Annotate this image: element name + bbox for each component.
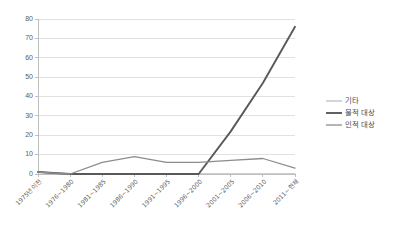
y-tick-label: 50: [25, 73, 33, 80]
series-line-2: [38, 157, 295, 174]
series-line-1: [38, 27, 295, 174]
chart-container: 01020304050607080 1975년이전1976~19801981~1…: [0, 0, 395, 227]
x-tick-label: 1996~2000: [172, 178, 203, 209]
chart-legend: 기타물적 대상인적 대상: [326, 96, 375, 129]
gridlines-group: [38, 19, 295, 174]
series-group: [38, 27, 295, 174]
x-tick-label: 1991~1995: [140, 178, 171, 209]
y-axis-group: 01020304050607080: [25, 15, 38, 177]
x-tick-label: 1981~1985: [76, 178, 107, 209]
x-tick-label: 2011~현재: [271, 178, 300, 207]
y-tick-label: 10: [25, 150, 33, 157]
y-tick-label: 0: [29, 170, 33, 177]
y-tick-label: 40: [25, 92, 33, 99]
y-tick-label: 70: [25, 34, 33, 41]
x-tick-label: 1976~1980: [44, 178, 75, 209]
legend-label-1: 물적 대상: [345, 108, 375, 117]
legend-label-2: 인적 대상: [345, 120, 375, 129]
x-tick-label: 2006~2010: [237, 178, 268, 209]
x-axis-group: 1975년이전1976~19801981~19851986~19901991~1…: [14, 174, 301, 209]
legend-label-0: 기타: [345, 96, 359, 105]
y-tick-label: 20: [25, 131, 33, 138]
x-tick-label: 1975년이전: [14, 178, 44, 208]
x-tick-label: 1986~1990: [108, 178, 139, 209]
x-tick-label: 2001~2005: [205, 178, 236, 209]
y-tick-label: 30: [25, 112, 33, 119]
y-tick-label: 60: [25, 54, 33, 61]
y-tick-label: 80: [25, 15, 33, 22]
line-chart: 01020304050607080 1975년이전1976~19801981~1…: [0, 0, 395, 227]
